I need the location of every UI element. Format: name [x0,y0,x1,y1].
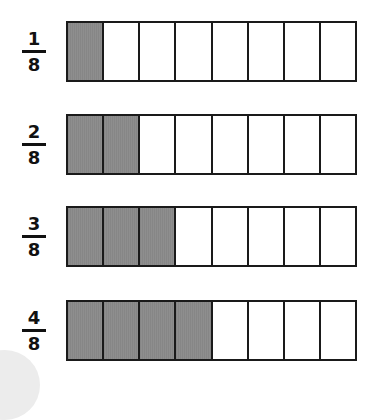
shaded-cell [140,302,176,359]
fraction-label: 1 8 [20,30,48,74]
numerator: 1 [28,30,41,48]
denominator: 8 [28,149,41,167]
empty-cell [321,208,355,265]
empty-cell [176,116,212,173]
denominator: 8 [28,241,41,259]
empty-cell [213,116,249,173]
empty-cell [249,208,285,265]
empty-cell [104,23,140,80]
empty-cell [176,23,212,80]
numerator: 4 [28,309,41,327]
fraction-bar [22,235,46,238]
empty-cell [249,116,285,173]
empty-cell [321,116,355,173]
fraction-bar [22,143,46,146]
fraction-strip [66,114,357,175]
empty-cell [176,208,212,265]
empty-cell [249,23,285,80]
fraction-row-2: 2 8 [0,114,377,176]
empty-cell [285,302,321,359]
denominator: 8 [28,56,41,74]
empty-cell [140,23,176,80]
shaded-cell [68,23,104,80]
fraction-row-4: 4 8 [0,300,377,362]
empty-cell [285,23,321,80]
empty-cell [140,116,176,173]
denominator: 8 [28,335,41,353]
fraction-label: 3 8 [20,215,48,259]
shaded-cell [104,302,140,359]
fraction-bar [22,50,46,53]
fraction-strip [66,300,357,361]
empty-cell [285,208,321,265]
empty-cell [321,302,355,359]
fraction-label: 2 8 [20,123,48,167]
fraction-label: 4 8 [20,309,48,353]
shaded-cell [176,302,212,359]
fraction-row-1: 1 8 [0,21,377,83]
shaded-cell [140,208,176,265]
fraction-row-3: 3 8 [0,206,377,268]
fraction-bar [22,329,46,332]
shaded-cell [68,208,104,265]
empty-cell [321,23,355,80]
shaded-cell [68,302,104,359]
fraction-strip [66,206,357,267]
numerator: 3 [28,215,41,233]
shaded-cell [104,208,140,265]
shaded-cell [104,116,140,173]
empty-cell [213,208,249,265]
numerator: 2 [28,123,41,141]
fraction-strip [66,21,357,82]
empty-cell [249,302,285,359]
empty-cell [285,116,321,173]
empty-cell [213,302,249,359]
shaded-cell [68,116,104,173]
empty-cell [213,23,249,80]
